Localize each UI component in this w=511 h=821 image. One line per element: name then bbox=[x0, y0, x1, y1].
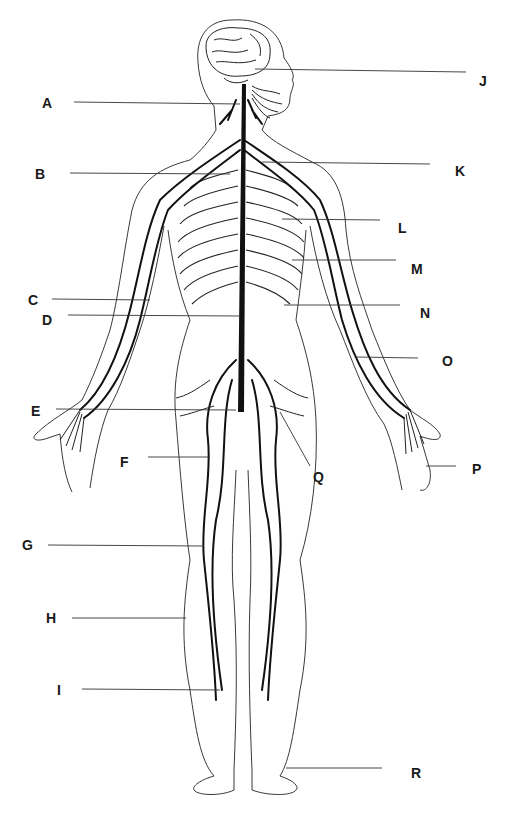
label-r: R bbox=[411, 766, 421, 780]
label-g: G bbox=[22, 538, 33, 552]
label-n: N bbox=[420, 306, 430, 320]
label-q: Q bbox=[313, 470, 324, 484]
label-b: B bbox=[35, 167, 45, 181]
label-c: C bbox=[28, 293, 38, 307]
label-h: H bbox=[46, 611, 56, 625]
label-l: L bbox=[398, 221, 407, 235]
label-p: P bbox=[472, 462, 481, 476]
label-f: F bbox=[120, 455, 129, 469]
brain bbox=[206, 28, 270, 83]
label-a: A bbox=[42, 96, 52, 110]
nervous-system-diagram bbox=[0, 0, 511, 821]
facial-nerves bbox=[252, 86, 282, 118]
spinal-cord bbox=[220, 84, 262, 412]
label-i: I bbox=[57, 683, 61, 697]
label-j: J bbox=[479, 74, 487, 88]
label-d: D bbox=[42, 313, 52, 327]
label-e: E bbox=[31, 404, 40, 418]
label-o: O bbox=[442, 354, 453, 368]
label-k: K bbox=[455, 164, 465, 178]
label-m: M bbox=[411, 262, 423, 276]
body-outline bbox=[34, 20, 440, 795]
